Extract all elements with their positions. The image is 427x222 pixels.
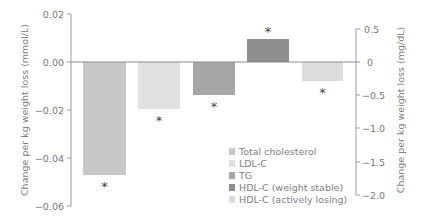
significance-star: *: [265, 24, 272, 39]
legend-swatch: [229, 160, 235, 167]
right-axis-title: Change per kg weight loss (mg/dL): [395, 27, 406, 193]
left-tick-label: −0.04: [35, 153, 64, 164]
legend-swatch: [229, 148, 235, 155]
legend-swatch: [229, 196, 235, 203]
legend-swatch: [229, 184, 235, 191]
right-tick-label: −1.0: [362, 123, 385, 134]
legend-swatch: [229, 172, 235, 179]
left-tick-label: 0.02: [43, 9, 64, 20]
legend: Total cholesterol LDL-C TG HDL-C (weight…: [229, 146, 347, 205]
significance-markers: * * * * *: [101, 24, 326, 194]
bar-hdl-actively-losing: [302, 62, 343, 81]
significance-star: *: [319, 85, 326, 100]
legend-label: HDL-C (weight stable): [239, 182, 343, 193]
legend-label: LDL-C: [239, 158, 267, 169]
bar-hdl-weight-stable: [247, 39, 289, 62]
left-axis-title: Change per kg weight loss (mmol/L): [19, 24, 30, 196]
right-tick-label: 0.5: [364, 24, 379, 35]
legend-label: HDL-C (actively losing): [239, 194, 347, 205]
bar-tg: [193, 62, 235, 95]
left-tick-label: −0.06: [35, 201, 64, 212]
bar-ldl-c: [138, 62, 180, 109]
right-tick-label: −1.5: [362, 157, 385, 168]
left-tick-label: 0.00: [43, 57, 64, 68]
right-tick-label: 0: [367, 57, 373, 68]
left-axis: 0.02 0.00 −0.02 −0.04 −0.06 Change per k…: [19, 9, 71, 212]
bar-total-cholesterol: [83, 62, 126, 175]
right-tick-label: −2.0: [362, 190, 385, 201]
right-tick-label: −0.5: [362, 90, 385, 101]
legend-label: Total cholesterol: [238, 146, 316, 157]
significance-star: *: [211, 99, 218, 114]
left-tick-label: −0.02: [35, 105, 64, 116]
significance-star: *: [156, 113, 163, 128]
legend-label: TG: [238, 170, 252, 181]
significance-star: *: [101, 179, 108, 194]
chart: 0.02 0.00 −0.02 −0.04 −0.06 Change per k…: [0, 0, 427, 222]
right-axis: 0.5 0 −0.5 −1.0 −1.5 −2.0 Change per kg …: [356, 24, 406, 201]
